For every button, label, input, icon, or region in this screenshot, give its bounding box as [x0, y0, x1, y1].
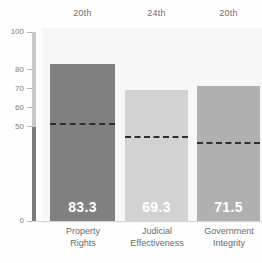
y-tick-mark-2 — [27, 88, 32, 89]
y-tick-mark-1 — [27, 69, 32, 70]
bar-value-label-2: 71.5 — [197, 199, 260, 215]
category-label-2: Government Integrity — [190, 226, 262, 249]
x-axis-baseline — [32, 221, 262, 222]
y-tick-2: 70 — [2, 84, 32, 94]
bar-value-label-1: 69.3 — [125, 199, 188, 215]
plot-area: 100 80 70 60 50 0 83.3 69.3 — [0, 28, 262, 223]
y-tick-mark-3 — [27, 107, 32, 108]
rank-label-2: 20th — [197, 8, 260, 18]
reference-line-2 — [197, 142, 260, 144]
category-label-row: Property Rights Judicial Effectiveness G… — [0, 226, 262, 260]
y-tick-mark-4 — [27, 126, 32, 127]
y-tick-0: 100 — [2, 27, 32, 37]
reference-line-1 — [125, 136, 188, 138]
y-tick-label-3: 60 — [15, 103, 24, 113]
category-label-0: Property Rights — [44, 226, 122, 249]
rank-header-row: 20th 24th 20th — [0, 8, 262, 24]
y-tick-label-4: 50 — [15, 122, 24, 132]
y-tick-5: 0 — [2, 216, 32, 226]
bar-value-label-0: 83.3 — [50, 199, 115, 215]
y-tick-mark-0 — [27, 32, 32, 33]
bar-chart: 20th 24th 20th 100 80 70 60 50 — [0, 0, 262, 263]
y-axis-spine-upper — [32, 32, 36, 127]
category-label-1: Judicial Effectiveness — [116, 226, 198, 249]
y-tick-4: 50 — [2, 122, 32, 132]
y-tick-3: 60 — [2, 103, 32, 113]
bar-government-integrity[interactable]: 71.5 — [197, 86, 260, 221]
bar-property-rights[interactable]: 83.3 — [50, 64, 115, 221]
y-tick-1: 80 — [2, 65, 32, 75]
y-axis-spine-lower — [32, 127, 36, 222]
rank-label-1: 24th — [125, 8, 188, 18]
y-tick-label-5: 0 — [20, 216, 24, 226]
bar-judicial-effectiveness[interactable]: 69.3 — [125, 90, 188, 221]
reference-line-0 — [50, 123, 115, 125]
y-tick-label-1: 80 — [15, 65, 24, 75]
y-tick-label-0: 100 — [11, 27, 24, 37]
y-tick-label-2: 70 — [15, 84, 24, 94]
rank-label-0: 20th — [50, 8, 115, 18]
